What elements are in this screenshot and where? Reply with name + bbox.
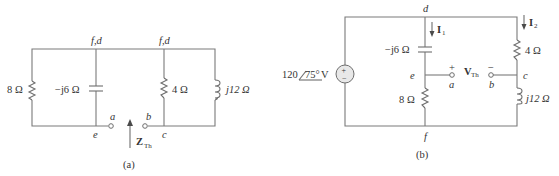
wire-a-bottom-right — [148, 100, 215, 126]
source-minus: − — [342, 74, 347, 83]
label-resistor-4-a: 4 Ω — [172, 84, 188, 95]
wire-a-bottom-left — [32, 100, 108, 126]
node-label-b-e: e — [410, 70, 415, 81]
label-inductor-a: j12 Ω — [224, 84, 250, 95]
label-vth-sub: Th — [471, 71, 479, 79]
label-i2-main: I — [529, 17, 533, 28]
resistor-4-ohm-a — [161, 78, 167, 98]
label-resistor-8-a: 8 Ω — [7, 84, 23, 95]
wire-b-top — [345, 17, 517, 66]
node-label-a-top-left: f,d — [91, 35, 103, 46]
resistor-4-ohm-b — [514, 40, 520, 60]
terminal-b-b — [489, 73, 494, 78]
label-resistor-8-b: 8 Ω — [399, 94, 415, 105]
node-label-a-e: e — [93, 129, 98, 140]
label-i1-main: I — [437, 24, 441, 35]
terminal-label-b-a: a — [449, 79, 454, 90]
label-inductor-b: j12 Ω — [524, 93, 550, 104]
inductor-b — [517, 88, 522, 104]
node-label-b-c: c — [523, 70, 528, 81]
caption-a: (a) — [123, 159, 135, 171]
resistor-8-ohm-a — [29, 81, 35, 100]
label-zth-sub: Th — [144, 142, 152, 150]
caption-b: (b) — [416, 149, 429, 161]
terminal-label-b-b: b — [489, 79, 494, 90]
node-label-a-top-right: f,d — [159, 35, 171, 46]
node-label-a-c: c — [162, 129, 167, 140]
terminal-plus: + — [449, 62, 455, 73]
source-magnitude: 120 — [282, 69, 298, 80]
terminal-a-right — [143, 124, 148, 129]
label-capacitor-a: −j6 Ω — [55, 84, 80, 95]
inductor-a — [215, 80, 220, 100]
down-arrow-icon-i2 — [522, 24, 527, 30]
node-label-b-f: f — [424, 131, 429, 142]
node-label-b-d: d — [423, 3, 429, 14]
circuit-b: + − d f e c I 1 I 2 −j6 Ω 8 Ω 4 Ω j12 Ω … — [282, 3, 550, 161]
terminal-minus: − — [488, 62, 494, 73]
terminal-label-b: b — [146, 111, 151, 122]
up-arrow-icon — [127, 119, 133, 126]
label-capacitor-b: −j6 Ω — [385, 44, 410, 55]
resistor-8-ohm-b — [422, 88, 428, 108]
circuit-figure: f,d f,d 8 Ω −j6 Ω 4 Ω j12 Ω a b e c Z Th… — [0, 0, 559, 176]
terminal-label-a: a — [110, 111, 115, 122]
down-arrow-icon-i1 — [430, 31, 435, 37]
label-i2-sub: 2 — [534, 22, 538, 30]
terminal-b-a — [450, 73, 455, 78]
label-resistor-4-b: 4 Ω — [525, 45, 541, 56]
wire-a-top — [32, 49, 215, 81]
label-i1-sub: 1 — [442, 29, 446, 37]
terminal-a-left — [109, 124, 114, 129]
source-unit: V — [321, 69, 329, 80]
label-zth-main: Z — [136, 136, 143, 147]
source-angle: 75° — [305, 69, 320, 80]
circuit-a: f,d f,d 8 Ω −j6 Ω 4 Ω j12 Ω a b e c Z Th… — [7, 35, 250, 171]
